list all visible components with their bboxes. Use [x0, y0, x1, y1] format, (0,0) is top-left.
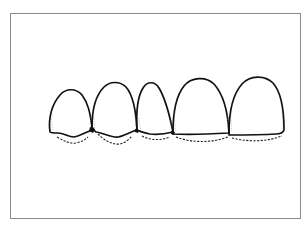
tooth-1 [49, 90, 92, 143]
teeth-illustration [0, 0, 308, 228]
tooth-2 [89, 83, 137, 145]
tooth-5 [229, 77, 284, 141]
tooth-4 [171, 79, 229, 142]
tooth-3 [135, 83, 173, 140]
